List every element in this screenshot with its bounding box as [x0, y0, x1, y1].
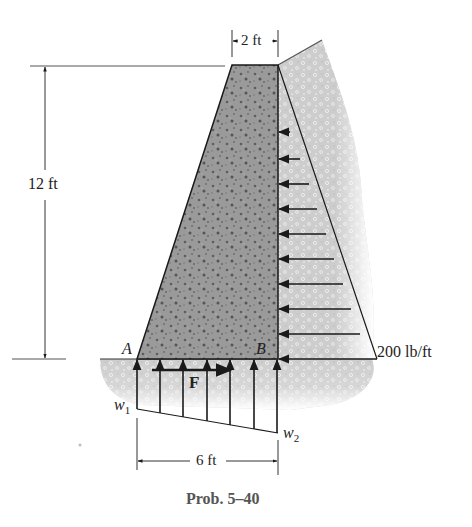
figure-caption: Prob. 5–40 — [186, 490, 259, 508]
retaining-wall-figure: 2 ft 12 ft 6 ft A B 200 lb/ft F w1 w2 Pr… — [0, 0, 472, 527]
w2-subscript: 2 — [294, 432, 300, 444]
stray-dot — [79, 444, 82, 447]
label-top-width: 2 ft — [241, 32, 261, 49]
w1-subscript: 1 — [125, 404, 131, 416]
w2-symbol: w — [283, 424, 294, 441]
label-friction-force: F — [189, 373, 199, 393]
label-w1: w1 — [114, 396, 130, 416]
label-point-a: A — [122, 340, 132, 358]
foundation-soil — [100, 359, 374, 410]
label-point-b: B — [256, 340, 266, 358]
label-soil-pressure: 200 lb/ft — [377, 343, 432, 361]
label-height: 12 ft — [28, 175, 58, 193]
w1-symbol: w — [114, 396, 125, 413]
backfill-soil — [278, 40, 374, 360]
label-w2: w2 — [283, 424, 299, 444]
concrete-wall — [137, 65, 278, 359]
wall-diagram — [0, 0, 472, 527]
label-base-width: 6 ft — [194, 452, 218, 469]
